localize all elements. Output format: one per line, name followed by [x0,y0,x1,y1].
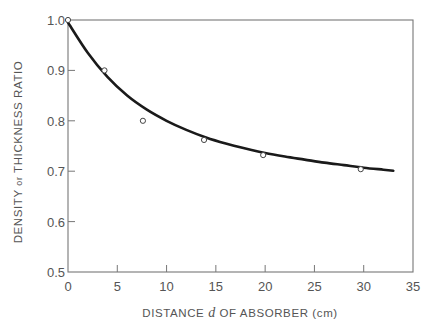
y-axis-title: DENSITY or THICKNESS RATIO [12,61,24,244]
x-axis-ticks: 05101520253035 [64,265,420,294]
curve-path [68,23,393,171]
chart: 0.50.60.70.80.91.0 05101520253035 DISTAN… [0,0,431,330]
x-tick-label: 0 [64,279,71,294]
y-tick-label: 0.6 [47,215,65,230]
x-tick-label: 5 [114,279,121,294]
data-point-marker [201,137,206,142]
x-tick-label: 25 [307,279,321,294]
y-tick-label: 0.5 [47,265,65,280]
y-axis-ticks: 0.50.60.70.80.91.0 [47,13,75,280]
y-tick-label: 1.0 [47,13,65,28]
x-tick-label: 10 [159,279,173,294]
x-tick-label: 35 [406,279,420,294]
x-tick-label: 15 [209,279,223,294]
data-points [65,17,363,171]
x-tick-label: 30 [356,279,370,294]
y-tick-label: 0.8 [47,114,65,129]
data-point-marker [261,152,266,157]
data-point-marker [358,167,363,172]
data-point-marker [65,17,70,22]
data-point-marker [140,118,145,123]
data-point-marker [102,68,107,73]
y-tick-label: 0.7 [47,164,65,179]
x-axis-title: DISTANCE d OF ABSORBER (cm) [142,305,338,320]
x-tick-label: 20 [258,279,272,294]
y-tick-label: 0.9 [47,63,65,78]
fitted-curve [68,23,393,171]
